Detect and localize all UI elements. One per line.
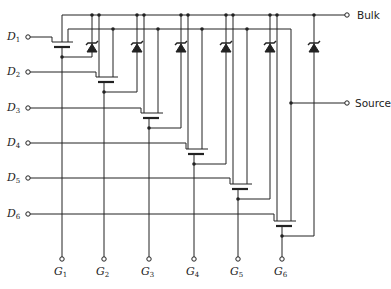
- source-label: Source: [355, 98, 391, 109]
- gate-label-4: G4: [186, 266, 199, 279]
- zener-diode-2: [131, 41, 143, 52]
- drain-label-2: D2: [7, 66, 20, 79]
- source-terminal: [345, 101, 349, 105]
- drain-label-4: D4: [7, 137, 20, 150]
- zener-diode-3: [175, 41, 187, 52]
- zener-diode-5: [264, 41, 276, 52]
- zener-diode-1: [86, 41, 98, 52]
- circuit-schematic: [0, 0, 391, 289]
- zener-diodes: [86, 41, 320, 52]
- gate-label-2: G2: [96, 266, 109, 279]
- bulk-terminal: [345, 13, 349, 17]
- drain-label-1: D1: [7, 31, 20, 44]
- bulk-label: Bulk: [357, 10, 380, 21]
- drain-label-6: D6: [7, 208, 20, 221]
- gate-label-5: G5: [230, 266, 243, 279]
- gate-label-6: G6: [274, 266, 287, 279]
- gate-label-3: G3: [141, 266, 154, 279]
- drain-label-5: D5: [7, 172, 20, 185]
- zener-diode-4: [220, 41, 232, 52]
- zener-diode-6: [308, 41, 320, 52]
- circuit-diagram: Bulk Source D1 D2 D3 D4 D5 D6 G1 G2 G3 G…: [0, 0, 391, 289]
- gate-label-1: G1: [54, 266, 67, 279]
- drain-label-3: D3: [7, 102, 20, 115]
